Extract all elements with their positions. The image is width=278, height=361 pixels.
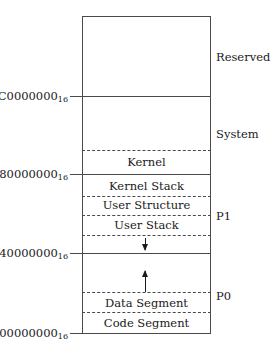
tick-80000000 xyxy=(70,174,82,175)
boundary-line-free-datasegment xyxy=(82,292,211,293)
boundary-line-userstructure-userstack xyxy=(82,215,211,216)
region-code-segment: Code Segment xyxy=(82,317,211,329)
addr-c0000000: C000000016 xyxy=(0,90,68,104)
memory-column-outline xyxy=(82,16,211,334)
boundary-line-c0000000 xyxy=(82,96,211,97)
arrow-heap-head xyxy=(142,270,148,277)
tick-c0000000 xyxy=(70,96,82,97)
region-user-stack: User Stack xyxy=(82,219,211,231)
boundary-line-kernelstack-userstructure xyxy=(82,196,211,197)
side-p1: P1 xyxy=(216,210,231,222)
side-system: System xyxy=(216,128,259,140)
boundary-line-userstack-free xyxy=(82,235,211,236)
addr-80000000: 8000000016 xyxy=(0,168,68,182)
addr-80000000-subscript: 16 xyxy=(58,173,68,182)
addr-40000000: 4000000016 xyxy=(0,247,68,261)
region-kernel-stack: Kernel Stack xyxy=(82,180,211,192)
addr-c0000000-value: C0000000 xyxy=(0,89,58,103)
arrow-user-stack-head xyxy=(142,244,148,251)
addr-c0000000-subscript: 16 xyxy=(58,95,68,104)
memory-layout-diagram: C000000016 8000000016 4000000016 0000000… xyxy=(0,0,278,361)
boundary-line-system-kernel xyxy=(82,150,211,151)
boundary-line-80000000 xyxy=(82,174,211,175)
addr-00000000: 0000000016 xyxy=(0,327,68,341)
tick-40000000 xyxy=(70,253,82,254)
side-reserved: Reserved xyxy=(216,51,270,63)
addr-40000000-subscript: 16 xyxy=(58,252,68,261)
addr-00000000-value: 00000000 xyxy=(0,326,58,340)
region-kernel: Kernel xyxy=(82,156,211,168)
side-p0: P0 xyxy=(216,290,231,302)
boundary-line-40000000 xyxy=(82,253,211,254)
addr-80000000-value: 80000000 xyxy=(0,167,58,181)
tick-00000000 xyxy=(70,333,82,334)
addr-40000000-value: 40000000 xyxy=(0,246,58,260)
region-user-structure: User Structure xyxy=(82,199,211,211)
addr-00000000-subscript: 16 xyxy=(58,332,68,341)
boundary-line-datasegment-codesegment xyxy=(82,312,211,313)
region-data-segment: Data Segment xyxy=(82,297,211,309)
